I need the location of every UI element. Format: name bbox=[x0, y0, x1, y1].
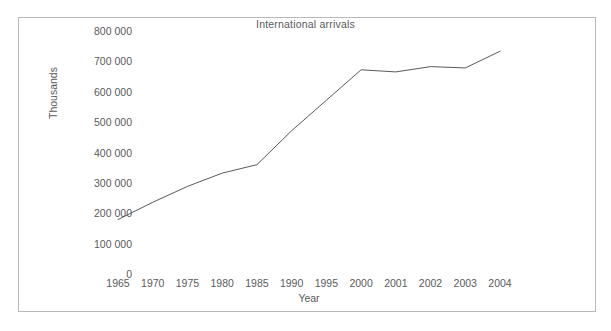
y-axis-title: Thousands bbox=[47, 67, 59, 119]
x-axis-tick-label: 1980 bbox=[210, 277, 233, 289]
x-axis-tick-label: 2004 bbox=[488, 277, 511, 289]
plot-area bbox=[118, 38, 500, 250]
x-axis-tick-labels: 1965197019751980198519901995200020012002… bbox=[118, 277, 500, 291]
x-axis-tick-label: 1990 bbox=[280, 277, 303, 289]
x-axis-tick-label: 1985 bbox=[245, 277, 268, 289]
y-axis-tick-label: 800 000 bbox=[60, 25, 132, 37]
x-axis-tick-label: 1995 bbox=[315, 277, 338, 289]
x-axis-tick-label: 2003 bbox=[454, 277, 477, 289]
x-axis-tick-label: 1965 bbox=[106, 277, 129, 289]
x-axis-tick-label: 2002 bbox=[419, 277, 442, 289]
line-series-svg bbox=[118, 38, 500, 250]
x-axis-tick-label: 2001 bbox=[384, 277, 407, 289]
x-axis-tick-label: 2000 bbox=[349, 277, 372, 289]
x-axis-tick-label: 1970 bbox=[141, 277, 164, 289]
line-series-path bbox=[118, 51, 500, 219]
x-axis-title: Year bbox=[118, 292, 500, 304]
chart-figure: International arrivals Thousands 0100 00… bbox=[0, 0, 611, 331]
x-axis-tick-label: 1975 bbox=[176, 277, 199, 289]
